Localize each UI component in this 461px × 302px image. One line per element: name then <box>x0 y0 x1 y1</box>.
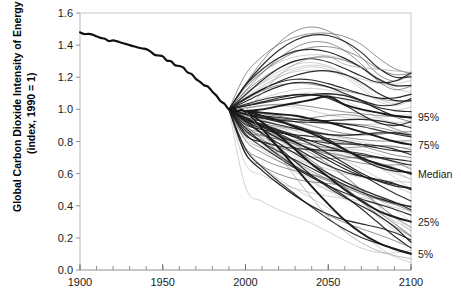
x-tick-label: 2050 <box>316 276 340 288</box>
y-tick-label: 0.0 <box>58 264 73 276</box>
y-tick-label: 0.6 <box>58 168 73 180</box>
y-tick-label: 0.2 <box>58 232 73 244</box>
x-tick-label: 2000 <box>233 276 257 288</box>
y-tick-label: 1.4 <box>58 39 73 51</box>
percentile-annotation: 75% <box>418 139 439 151</box>
y-tick-label: 1.6 <box>58 7 73 19</box>
y-tick-label: 0.8 <box>58 136 73 148</box>
y-tick-label: 1.0 <box>58 103 73 115</box>
y-tick-label: 0.4 <box>58 200 73 212</box>
y-axis-title-line2: (index, 1990 = 1) <box>25 73 37 154</box>
chart-figure: 0.00.20.40.60.81.01.21.41.6 190019502000… <box>0 0 461 302</box>
percentile-annotation: Median <box>418 168 453 180</box>
percentile-annotation: 25% <box>418 216 439 228</box>
percentile-annotation: 95% <box>418 111 439 123</box>
carbon-intensity-chart: 0.00.20.40.60.81.01.21.41.6 190019502000… <box>0 0 461 302</box>
y-axis-title-line1: Global Carbon Dioxide Intensity of Energ… <box>11 1 23 212</box>
x-tick-label: 2100 <box>399 276 423 288</box>
x-tick-label: 1900 <box>68 276 92 288</box>
percentile-annotation: 5% <box>418 248 433 260</box>
x-tick-label: 1950 <box>151 276 175 288</box>
y-axis-tick-labels: 0.00.20.40.60.81.01.21.41.6 <box>58 7 73 276</box>
y-tick-label: 1.2 <box>58 71 73 83</box>
